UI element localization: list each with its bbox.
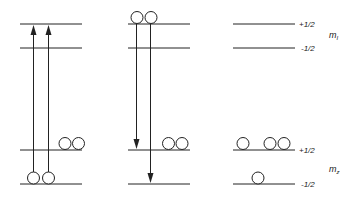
particle-circle	[131, 12, 143, 24]
label-upper-quantum-number: mI	[329, 30, 339, 41]
particle-circle	[43, 172, 55, 184]
panel-populations: +1/2 -1/2 +1/2 -1/2 mI mz	[233, 20, 340, 189]
label-minus-half-bottom: -1/2	[301, 180, 315, 189]
panel-emission	[128, 12, 190, 185]
particle-circle	[264, 138, 276, 150]
label-lower-quantum-number: mz	[329, 164, 340, 175]
particle-circle	[145, 12, 157, 24]
label-plus-half-bottom: +1/2	[299, 146, 315, 155]
panel-absorption	[20, 24, 85, 184]
label-minus-half-top: -1/2	[301, 44, 315, 53]
particle-circle	[252, 172, 264, 184]
energy-level-diagram: +1/2 -1/2 +1/2 -1/2 mI mz	[0, 0, 358, 197]
particle-circle	[163, 138, 175, 150]
particle-circle	[28, 172, 40, 184]
particle-circle	[59, 138, 71, 150]
particle-circle	[237, 138, 249, 150]
particle-circle	[176, 138, 188, 150]
label-plus-half-top: +1/2	[299, 20, 315, 29]
particle-circle	[278, 138, 290, 150]
particle-circle	[73, 138, 85, 150]
arrow-down-icon	[134, 24, 140, 149]
